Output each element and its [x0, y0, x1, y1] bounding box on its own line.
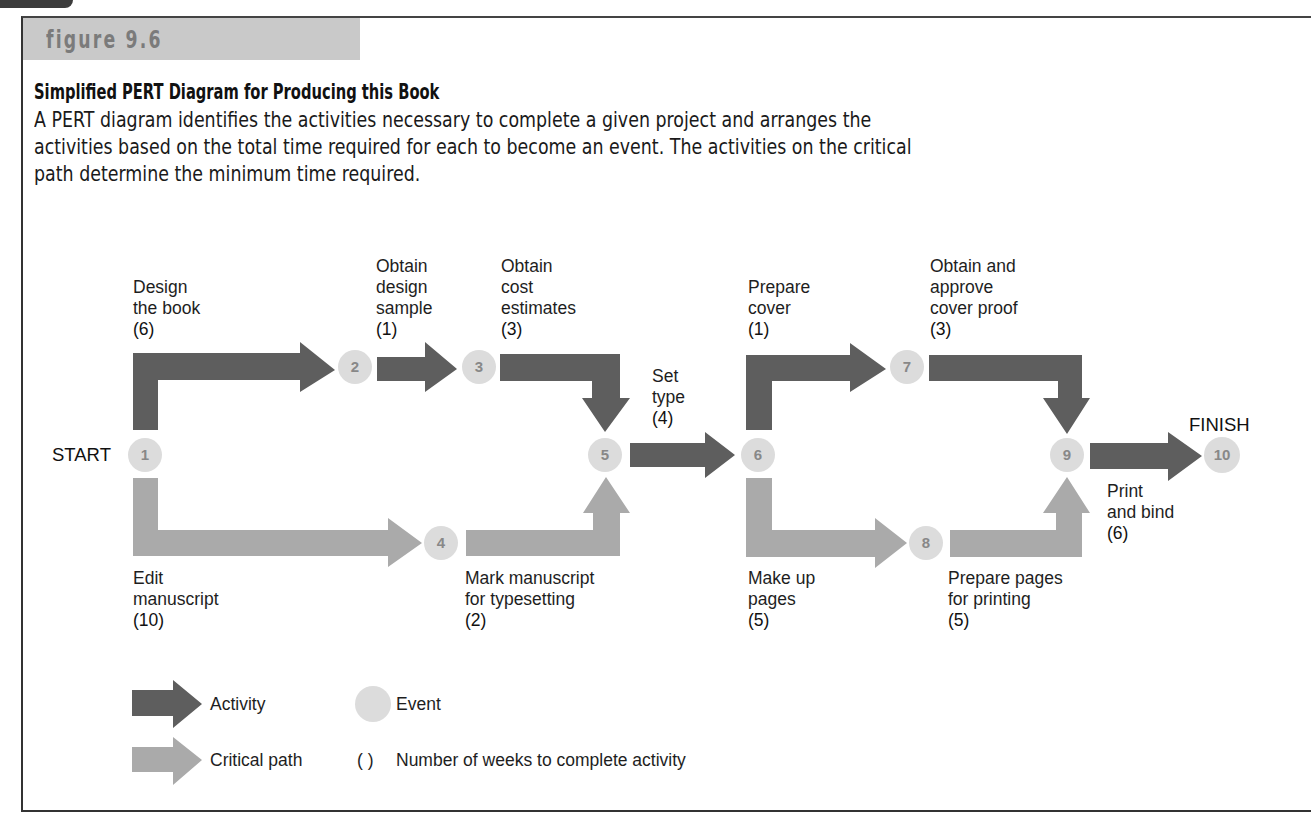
critical-arrow-6-8: [746, 478, 907, 568]
event-node-6: 6: [741, 438, 775, 472]
activity-label-prepare-pages-printing: Prepare pages for printing (5): [948, 568, 1063, 631]
activity-label-make-up-pages: Make up pages (5): [748, 568, 815, 631]
activity-arrow-2-3: [377, 342, 457, 392]
activity-label-design-book: Design the book (6): [133, 277, 200, 340]
activity-arrow-9-10: [1090, 432, 1202, 481]
legend-parens-meaning: Number of weeks to complete activity: [396, 750, 686, 771]
critical-arrow-8-9: [950, 477, 1090, 557]
legend-critical-path-label: Critical path: [210, 750, 302, 771]
critical-arrow-4-5: [466, 477, 630, 556]
event-node-4: 4: [424, 526, 458, 560]
event-node-10: 10: [1204, 437, 1240, 473]
activity-arrow-3-5: [500, 354, 630, 432]
activity-label-set-type: Set type (4): [652, 366, 685, 429]
activity-arrow-5-6: [630, 432, 735, 478]
event-node-7: 7: [890, 350, 924, 384]
legend-parens-symbol: ( ): [357, 750, 374, 771]
event-node-3: 3: [462, 350, 496, 384]
finish-label: FINISH: [1189, 414, 1250, 436]
legend-activity-arrow-icon: [132, 680, 202, 728]
svg-text:2: 2: [351, 358, 359, 375]
activity-label-obtain-design-sample: Obtain design sample (1): [376, 256, 432, 340]
svg-text:4: 4: [437, 534, 446, 551]
event-node-5: 5: [588, 438, 622, 472]
svg-text:1: 1: [141, 446, 149, 463]
activity-arrow-6-7: [746, 343, 886, 430]
activity-label-obtain-cost-estimates: Obtain cost estimates (3): [501, 256, 576, 340]
activity-label-obtain-approve-cover-proof: Obtain and approve cover proof (3): [930, 256, 1018, 340]
svg-text:10: 10: [1214, 446, 1231, 463]
activity-label-prepare-cover: Prepare cover (1): [748, 277, 810, 340]
svg-text:9: 9: [1063, 446, 1071, 463]
event-node-2: 2: [338, 350, 372, 384]
svg-text:8: 8: [922, 534, 930, 551]
svg-text:5: 5: [601, 446, 609, 463]
activity-label-mark-manuscript: Mark manuscript for typesetting (2): [465, 568, 594, 631]
event-node-9: 9: [1050, 438, 1084, 472]
legend-activity-label: Activity: [210, 694, 265, 715]
legend-event-circle-icon: [355, 686, 391, 722]
svg-text:3: 3: [475, 358, 483, 375]
svg-text:7: 7: [903, 358, 911, 375]
legend-event-label: Event: [396, 694, 441, 715]
critical-arrow-1-4: [133, 478, 422, 567]
activity-label-print-and-bind: Print and bind (6): [1107, 481, 1174, 544]
activity-label-edit-manuscript: Edit manuscript (10): [133, 568, 219, 631]
activity-arrow-7-9: [929, 355, 1090, 434]
start-label: START: [52, 444, 111, 466]
event-node-8: 8: [909, 526, 943, 560]
event-node-1: 1: [128, 438, 162, 472]
activity-arrow-1-2: [133, 342, 335, 430]
svg-text:6: 6: [754, 446, 762, 463]
legend-critical-path-arrow-icon: [132, 737, 202, 785]
